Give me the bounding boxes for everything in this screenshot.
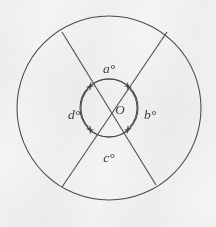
angle-label-top: a° [103, 61, 116, 76]
center-point-label: O [115, 102, 125, 117]
geometry-figure: a° b° c° d° O [0, 0, 216, 227]
angle-arc-left [81, 89, 88, 128]
angle-arc-bottom [92, 132, 126, 137]
angle-label-right: b° [144, 107, 157, 122]
angle-label-bottom: c° [103, 150, 115, 165]
angle-label-left: d° [68, 107, 81, 122]
angle-arc-top [92, 79, 126, 84]
geometry-diagram-svg: a° b° c° d° O [0, 0, 216, 227]
angle-arc-right [130, 89, 137, 128]
